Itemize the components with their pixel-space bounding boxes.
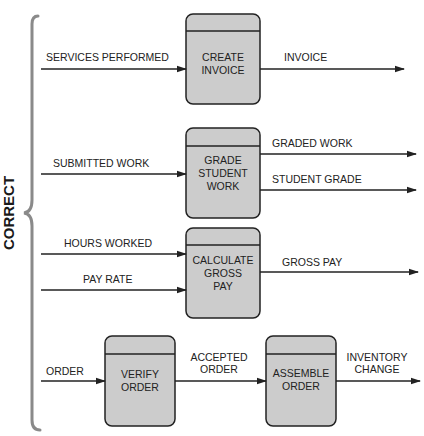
process-assemble-order: ASSEMBLE ORDER xyxy=(266,336,336,426)
svg-text:SUBMITTED WORK: SUBMITTED WORK xyxy=(53,157,149,169)
process-label: ASSEMBLE xyxy=(273,367,330,379)
process-verify-order: VERIFY ORDER xyxy=(105,336,175,426)
svg-text:GRADED WORK: GRADED WORK xyxy=(272,137,353,149)
svg-text:STUDENT GRADE: STUDENT GRADE xyxy=(272,173,362,185)
process-calculate-gross-pay: CALCULATE GROSS PAY xyxy=(186,228,260,318)
svg-text:ORDER: ORDER xyxy=(200,363,238,375)
flow-order: ORDER xyxy=(41,365,105,381)
process-label: ORDER xyxy=(282,380,320,392)
flow-gross-pay: GROSS PAY xyxy=(260,256,418,272)
process-label: VERIFY xyxy=(121,368,159,380)
svg-text:SERVICES PERFORMED: SERVICES PERFORMED xyxy=(46,51,169,63)
flow-pay-rate: PAY RATE xyxy=(41,273,186,290)
process-label: CALCULATE xyxy=(192,254,253,266)
svg-text:CHANGE: CHANGE xyxy=(355,363,400,375)
flow-submitted-work: SUBMITTED WORK xyxy=(41,157,186,174)
process-label: CREATE xyxy=(202,51,244,63)
flow-accepted-order: ACCEPTED ORDER xyxy=(175,351,266,381)
svg-text:INVENTORY: INVENTORY xyxy=(347,351,408,363)
flow-inventory-change: INVENTORY CHANGE xyxy=(336,351,420,381)
process-label: PAY xyxy=(213,280,232,292)
svg-text:ACCEPTED: ACCEPTED xyxy=(190,351,248,363)
process-label: WORK xyxy=(207,180,240,192)
process-create-invoice: CREATE INVOICE xyxy=(186,14,260,104)
side-label: CORRECT xyxy=(0,176,17,250)
flow-hours-worked: HOURS WORKED xyxy=(41,237,186,254)
svg-text:GROSS PAY: GROSS PAY xyxy=(282,256,342,268)
process-label: ORDER xyxy=(121,381,159,393)
brace-icon xyxy=(24,16,40,430)
process-label: GRADE xyxy=(204,154,241,166)
svg-text:HOURS WORKED: HOURS WORKED xyxy=(64,237,153,249)
process-label: GROSS xyxy=(204,267,242,279)
process-grade-student-work: GRADE STUDENT WORK xyxy=(186,128,260,218)
svg-text:INVOICE: INVOICE xyxy=(284,51,327,63)
process-label: STUDENT xyxy=(198,167,248,179)
process-label: INVOICE xyxy=(201,64,244,76)
svg-text:PAY RATE: PAY RATE xyxy=(83,273,132,285)
flow-graded-work: GRADED WORK xyxy=(260,137,416,154)
data-flow-diagram: CORRECT CREATE INVOICE GRADE STUDENT WOR… xyxy=(0,0,424,436)
flow-invoice: INVOICE xyxy=(260,51,404,69)
flow-student-grade: STUDENT GRADE xyxy=(260,173,416,190)
flow-services-performed: SERVICES PERFORMED xyxy=(41,51,186,69)
svg-text:ORDER: ORDER xyxy=(46,365,84,377)
